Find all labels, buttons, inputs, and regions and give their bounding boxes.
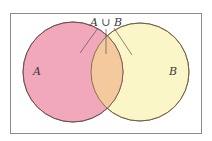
set-a-label: A [32, 65, 41, 78]
venn-diagram: A ∪ B A B [0, 0, 212, 141]
set-b-label: B [168, 65, 177, 78]
union-label: A ∪ B [89, 16, 122, 29]
